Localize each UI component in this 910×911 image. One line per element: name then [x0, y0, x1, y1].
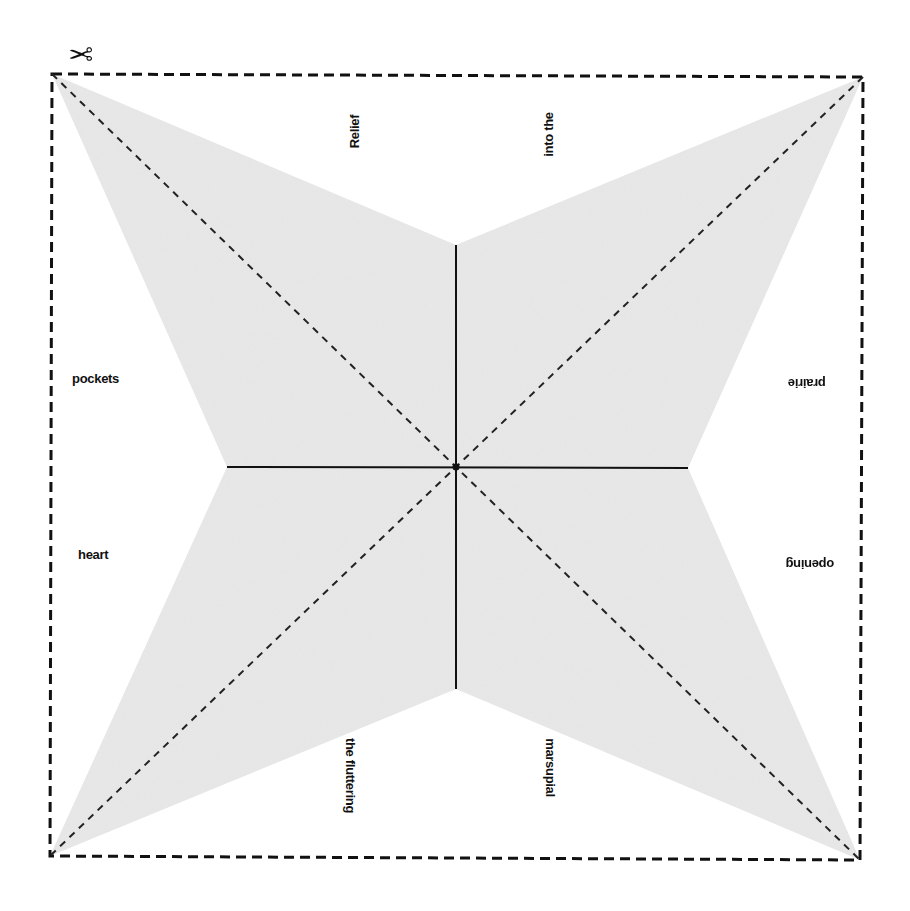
label-bottom-left: the fluttering — [343, 726, 358, 826]
label-top-right: into the — [541, 105, 556, 165]
label-top-left: Relief — [347, 107, 362, 157]
label-bottom-right: marsupial — [543, 728, 558, 808]
label-left-top: pockets — [72, 371, 132, 386]
label-left-bottom: heart — [78, 547, 118, 562]
label-right-top: prairie — [782, 376, 832, 391]
template-drawing — [0, 0, 910, 911]
star-cutout-template: ✂ Relief into the prairie opening marsup… — [0, 0, 910, 911]
scissors-icon: ✂ — [68, 40, 93, 70]
center-dot — [453, 464, 460, 471]
label-right-bottom: opening — [780, 557, 840, 572]
